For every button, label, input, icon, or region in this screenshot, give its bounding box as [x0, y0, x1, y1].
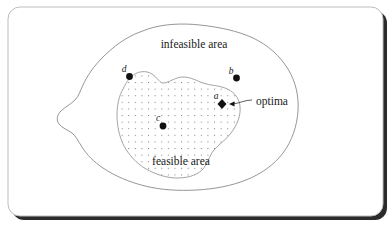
point-b-label: b	[229, 66, 234, 76]
infeasible-area-label: infeasible area	[161, 38, 228, 50]
feasible-area-label: feasible area	[152, 155, 210, 167]
figure-root: infeasible area feasible area d b c a op…	[0, 0, 391, 226]
point-a-label: a	[214, 91, 219, 101]
point-c-marker	[160, 123, 167, 130]
diagram-canvas: infeasible area feasible area d b c a op…	[0, 0, 391, 226]
optima-label: optima	[256, 95, 288, 108]
point-d-label: d	[122, 64, 127, 74]
point-b-marker	[233, 75, 240, 82]
point-d-marker	[126, 73, 133, 80]
